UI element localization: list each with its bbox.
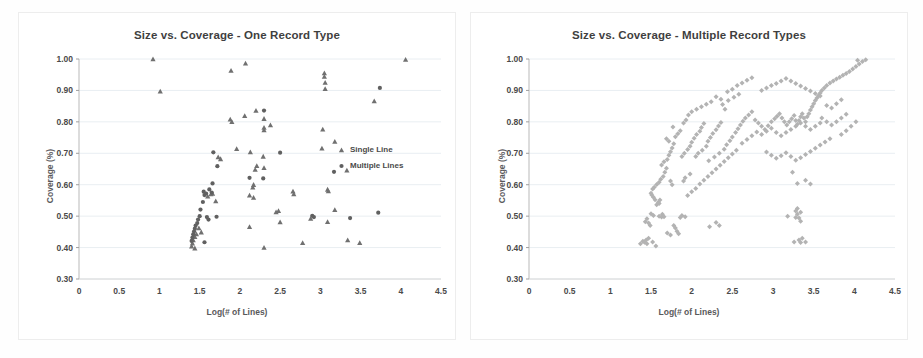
data-point xyxy=(774,130,779,135)
data-point xyxy=(204,191,208,195)
data-point xyxy=(740,141,745,146)
data-point xyxy=(247,224,252,229)
x-tick-label: 1 xyxy=(145,286,173,296)
circle-marker-icon xyxy=(337,161,346,170)
data-point xyxy=(278,220,283,225)
data-point xyxy=(332,170,336,174)
data-point xyxy=(210,181,214,185)
data-point xyxy=(278,151,282,155)
data-point xyxy=(372,99,377,104)
data-point xyxy=(774,81,779,86)
data-point xyxy=(268,122,273,127)
data-point xyxy=(829,106,834,111)
data-point xyxy=(736,126,741,131)
data-point xyxy=(332,207,337,212)
data-point xyxy=(190,239,194,243)
data-point xyxy=(290,189,295,194)
data-point xyxy=(319,146,324,151)
data-point xyxy=(312,215,316,219)
data-point xyxy=(247,176,251,180)
legend-label: Multiple Lines xyxy=(350,161,403,170)
x-tick-label: 4 xyxy=(387,286,415,296)
data-point xyxy=(839,97,844,102)
chart-panel-multiple-record-types: Size vs. Coverage - Multiple Record Type… xyxy=(470,12,908,340)
data-point xyxy=(764,85,769,90)
data-point xyxy=(323,86,328,91)
data-point xyxy=(323,80,328,85)
x-tick-label: 1 xyxy=(596,286,624,296)
x-tick-label: 2.5 xyxy=(718,286,746,296)
data-point xyxy=(730,151,735,156)
data-point xyxy=(722,147,727,152)
data-point xyxy=(740,80,745,85)
data-point xyxy=(829,123,834,128)
x-tick-label: 1.5 xyxy=(186,286,214,296)
data-point xyxy=(710,131,715,136)
data-point xyxy=(697,182,702,187)
data-point xyxy=(210,190,214,194)
data-point xyxy=(689,109,694,114)
data-point xyxy=(704,102,709,107)
data-point xyxy=(849,124,854,129)
data-point xyxy=(779,153,784,158)
x-tick-label: 3 xyxy=(306,286,334,296)
x-axis-title-right: Log(# of Lines) xyxy=(471,307,907,317)
data-point xyxy=(779,133,784,138)
x-tick-label: 3 xyxy=(759,286,787,296)
data-point xyxy=(730,134,735,139)
legend-item-multiple-lines[interactable]: Multiple Lines xyxy=(337,157,403,173)
legend-item-single-line[interactable]: Single Line xyxy=(337,141,403,157)
data-point xyxy=(746,112,751,117)
data-point xyxy=(712,155,717,160)
data-point xyxy=(744,78,749,83)
y-tick-label: 1.00 xyxy=(45,54,73,64)
data-point xyxy=(692,136,697,141)
data-point xyxy=(808,89,813,94)
data-point xyxy=(339,163,343,167)
data-point xyxy=(798,84,803,89)
data-point xyxy=(844,128,849,133)
data-point xyxy=(670,124,675,129)
y-tick-label: 1.00 xyxy=(495,54,523,64)
data-point xyxy=(376,211,380,215)
data-point xyxy=(242,113,247,118)
y-tick-label: 0.80 xyxy=(495,117,523,127)
data-point xyxy=(685,193,690,198)
x-tick-label: 0.5 xyxy=(105,286,133,296)
data-point xyxy=(779,116,784,121)
data-point xyxy=(320,127,325,132)
data-point xyxy=(853,119,858,124)
data-point xyxy=(723,107,728,112)
data-point xyxy=(689,189,694,194)
chart-legend-left: Single LineMultiple Lines xyxy=(337,141,403,173)
data-point xyxy=(736,92,741,97)
data-point xyxy=(823,139,828,144)
data-point xyxy=(839,116,844,121)
x-tick-label: 4 xyxy=(840,286,868,296)
data-point xyxy=(803,124,808,129)
data-point xyxy=(769,83,774,88)
data-point xyxy=(774,156,779,161)
data-point xyxy=(808,127,813,132)
data-point xyxy=(813,146,818,151)
data-point xyxy=(726,98,731,103)
y-tick-label: 0.50 xyxy=(495,211,523,221)
data-point xyxy=(261,154,266,159)
data-point xyxy=(834,119,839,124)
data-point xyxy=(261,127,266,132)
data-point xyxy=(202,240,206,244)
data-point xyxy=(749,75,754,80)
y-tick-label: 0.60 xyxy=(495,180,523,190)
data-point xyxy=(727,138,732,143)
data-point xyxy=(714,94,719,99)
data-point xyxy=(211,150,215,154)
x-tick-label: 0 xyxy=(65,286,93,296)
data-point xyxy=(734,148,739,153)
data-point xyxy=(228,68,233,73)
data-point xyxy=(714,127,719,132)
x-tick-label: 2 xyxy=(678,286,706,296)
data-point xyxy=(261,116,266,121)
data-point xyxy=(769,119,774,124)
data-point xyxy=(784,150,789,155)
x-tick-label: 4.5 xyxy=(427,286,455,296)
